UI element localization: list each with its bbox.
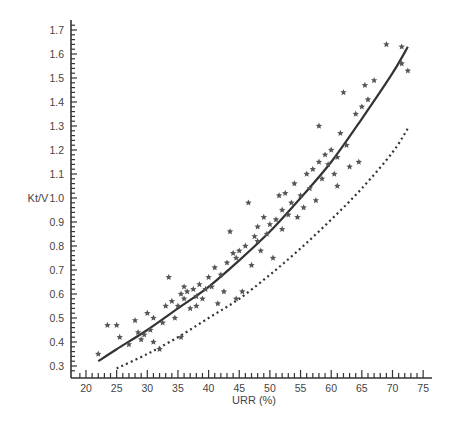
y-tick-label: 0.4 <box>49 336 64 348</box>
data-point-star-marker <box>254 223 260 229</box>
data-point-star-marker <box>181 295 187 301</box>
y-tick-label: 0.9 <box>49 216 64 228</box>
data-point-star-marker <box>199 295 205 301</box>
data-point-star-marker <box>346 163 352 169</box>
y-tick-label: 0.6 <box>49 288 64 300</box>
data-point-star-marker <box>310 166 316 172</box>
y-tick-label: 1.2 <box>49 144 64 156</box>
data-point-star-marker <box>208 283 214 289</box>
data-point-star-marker <box>132 317 138 323</box>
data-point-star-marker <box>242 243 248 249</box>
data-point-star-marker <box>178 291 184 297</box>
data-point-star-marker <box>334 154 340 160</box>
axes: 0.30.40.50.60.70.80.91.01.11.21.31.41.51… <box>49 20 432 394</box>
y-axis-label: Kt/V <box>28 192 49 204</box>
reference-curve-dotted <box>117 128 408 368</box>
data-point-star-marker <box>181 283 187 289</box>
data-point-star-marker <box>169 298 175 304</box>
data-point-star-marker <box>156 346 162 352</box>
y-tick-label: 1.3 <box>49 120 64 132</box>
data-point-star-marker <box>383 41 389 47</box>
data-point-star-marker <box>337 130 343 136</box>
x-tick-label: 45 <box>233 382 245 394</box>
data-point-star-marker <box>294 214 300 220</box>
data-point-star-marker <box>267 221 273 227</box>
data-point-star-marker <box>150 315 156 321</box>
data-point-star-marker <box>340 89 346 95</box>
data-point-star-marker <box>162 303 168 309</box>
data-point-star-marker <box>285 211 291 217</box>
y-tick-label: 1.6 <box>49 48 64 60</box>
data-point-star-marker <box>227 228 233 234</box>
data-point-star-marker <box>95 351 101 357</box>
data-point-star-marker <box>144 310 150 316</box>
curves <box>98 47 408 369</box>
data-point-star-marker <box>187 305 193 311</box>
x-axis-label: URR (%) <box>232 394 276 406</box>
data-point-star-marker <box>248 262 254 268</box>
data-point-star-marker <box>276 192 282 198</box>
data-point-star-marker <box>313 197 319 203</box>
data-point-star-marker <box>190 286 196 292</box>
y-tick-label: 1.5 <box>49 72 64 84</box>
data-point-star-marker <box>291 180 297 186</box>
data-point-star-marker <box>116 334 122 340</box>
data-point-star-marker <box>245 199 251 205</box>
data-point-star-marker <box>239 288 245 294</box>
data-point-star-marker <box>356 159 362 165</box>
data-point-star-marker <box>138 336 144 342</box>
data-point-star-marker <box>331 171 337 177</box>
x-tick-label: 75 <box>417 382 429 394</box>
data-point-star-marker <box>328 147 334 153</box>
data-point-star-marker <box>279 226 285 232</box>
data-point-star-marker <box>193 303 199 309</box>
y-tick-label: 0.5 <box>49 312 64 324</box>
data-point-star-marker <box>257 247 263 253</box>
x-tick-label: 70 <box>387 382 399 394</box>
scatter-chart: 0.30.40.50.60.70.80.91.01.11.21.31.41.51… <box>0 0 454 427</box>
data-point-star-marker <box>279 207 285 213</box>
x-tick-label: 65 <box>356 382 368 394</box>
x-tick-label: 55 <box>295 382 307 394</box>
data-point-star-marker <box>362 82 368 88</box>
data-point-star-marker <box>359 103 365 109</box>
fitted-curve-solid <box>98 47 408 361</box>
y-tick-label: 1.0 <box>49 192 64 204</box>
data-point-star-marker <box>113 322 119 328</box>
data-point-star-marker <box>166 274 172 280</box>
x-tick-label: 60 <box>325 382 337 394</box>
y-tick-label: 0.7 <box>49 264 64 276</box>
data-point-star-marker <box>236 247 242 253</box>
data-point-star-marker <box>224 259 230 265</box>
data-point-star-marker <box>205 274 211 280</box>
data-point-star-marker <box>405 67 411 73</box>
data-point-star-marker <box>303 171 309 177</box>
data-point-star-marker <box>196 281 202 287</box>
data-point-star-marker <box>282 190 288 196</box>
y-tick-label: 1.4 <box>49 96 64 108</box>
data-point-star-marker <box>184 288 190 294</box>
y-tick-label: 0.3 <box>49 360 64 372</box>
x-tick-label: 35 <box>172 382 184 394</box>
x-tick-label: 30 <box>141 382 153 394</box>
data-point-star-marker <box>316 123 322 129</box>
y-tick-label: 1.7 <box>49 24 64 36</box>
data-point-star-marker <box>398 43 404 49</box>
data-point-star-marker <box>371 77 377 83</box>
data-point-star-marker <box>150 339 156 345</box>
data-point-star-marker <box>334 183 340 189</box>
y-tick-label: 1.1 <box>49 168 64 180</box>
data-points <box>95 41 411 357</box>
data-point-star-marker <box>212 264 218 270</box>
data-point-star-marker <box>230 250 236 256</box>
data-point-star-marker <box>251 233 257 239</box>
data-point-star-marker <box>352 111 358 117</box>
data-point-star-marker <box>215 300 221 306</box>
data-point-star-marker <box>300 204 306 210</box>
data-point-star-marker <box>172 315 178 321</box>
x-tick-label: 20 <box>80 382 92 394</box>
data-point-star-marker <box>365 96 371 102</box>
x-tick-label: 40 <box>203 382 215 394</box>
x-tick-label: 50 <box>264 382 276 394</box>
x-tick-label: 25 <box>111 382 123 394</box>
